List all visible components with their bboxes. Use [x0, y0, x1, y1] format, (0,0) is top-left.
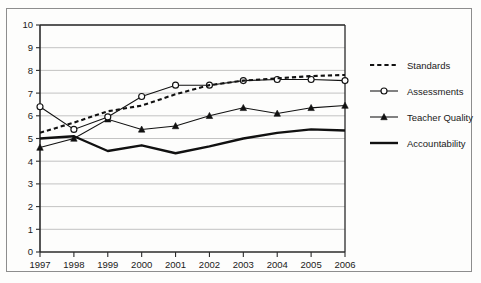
x-tick-label-2003: 2003 [233, 259, 254, 270]
line-chart: 0123456789101997199819992000200120022003… [0, 0, 481, 283]
legend-label-accountability: Accountability [407, 138, 466, 149]
y-tick-label-3: 3 [28, 178, 33, 189]
legend-marker-assessments [381, 88, 387, 94]
legend-label-assessments: Assessments [407, 86, 464, 97]
y-tick-label-10: 10 [22, 19, 33, 30]
x-tick-label-2002: 2002 [199, 259, 220, 270]
series-standards [40, 75, 345, 133]
x-tick-label-1997: 1997 [29, 259, 50, 270]
datapoint-assessments-2006 [342, 78, 348, 84]
series-line-accountability [40, 129, 345, 153]
y-tick-label-7: 7 [28, 88, 33, 99]
datapoint-teacher-quality-2003 [240, 104, 246, 110]
datapoint-assessments-1997 [37, 104, 43, 110]
legend-label-standards: Standards [407, 60, 451, 71]
series-accountability [40, 129, 345, 153]
y-tick-label-5: 5 [28, 133, 33, 144]
x-tick-label-1998: 1998 [63, 259, 84, 270]
legend-item-accountability[interactable]: Accountability [370, 138, 466, 149]
series-line-standards [40, 75, 345, 133]
y-tick-label-2: 2 [28, 201, 33, 212]
datapoint-assessments-2001 [173, 82, 179, 88]
x-tick-label-2006: 2006 [334, 259, 355, 270]
legend-item-teacher-quality[interactable]: Teacher Quality [370, 112, 473, 123]
legend-label-teacher-quality: Teacher Quality [407, 112, 473, 123]
x-axis-labels: 1997199819992000200120022003200420052006 [29, 252, 355, 270]
chart-figure: 0123456789101997199819992000200120022003… [0, 0, 481, 283]
x-tick-label-2005: 2005 [301, 259, 322, 270]
y-tick-label-4: 4 [28, 156, 33, 167]
x-tick-label-2001: 2001 [165, 259, 186, 270]
datapoint-assessments-1999 [105, 114, 111, 120]
y-gridlines: 012345678910 [22, 19, 345, 257]
series-line-assessments [40, 79, 345, 129]
chart-legend: StandardsAssessmentsTeacher QualityAccou… [370, 60, 473, 149]
datapoint-assessments-2005 [308, 76, 314, 82]
y-tick-label-0: 0 [28, 246, 33, 257]
legend-item-assessments[interactable]: Assessments [370, 86, 464, 97]
datapoint-assessments-1998 [71, 126, 77, 132]
datapoint-assessments-2000 [139, 94, 145, 100]
y-tick-label-9: 9 [28, 42, 33, 53]
x-tick-label-1999: 1999 [97, 259, 118, 270]
x-tick-label-2004: 2004 [267, 259, 288, 270]
y-tick-label-1: 1 [28, 224, 33, 235]
legend-item-standards[interactable]: Standards [370, 60, 451, 71]
y-tick-label-6: 6 [28, 110, 33, 121]
series-assessments [37, 76, 348, 132]
y-tick-label-8: 8 [28, 65, 33, 76]
x-tick-label-2000: 2000 [131, 259, 152, 270]
